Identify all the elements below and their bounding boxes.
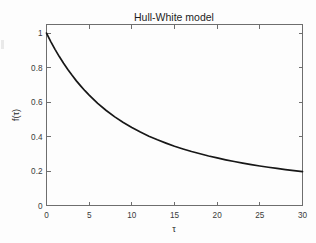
x-tick-label: 0 (44, 211, 49, 220)
x-axis-label: τ (172, 224, 176, 234)
y-tick-label: 0.4 (31, 133, 43, 142)
chart-title: Hull-White model (134, 11, 214, 23)
y-axis-ticks (47, 33, 303, 205)
y-axis-label: f(τ) (11, 109, 21, 121)
y-tick-label: 0.8 (31, 64, 43, 73)
x-tick-label: 5 (87, 211, 92, 220)
y-tick-label: 0.2 (31, 167, 43, 176)
x-tick-label: 20 (213, 211, 223, 220)
y-tick-label: 0 (38, 202, 43, 211)
x-tick-label: 10 (127, 211, 137, 220)
data-series-line (47, 33, 303, 172)
y-axis-tick-labels: 00.20.40.60.81 (31, 29, 43, 210)
x-axis-ticks (47, 25, 303, 206)
hull-white-plot: Hull-White model 051015202530 00.20.40.6… (0, 0, 316, 243)
x-tick-label: 15 (170, 211, 180, 220)
axes-frame (47, 25, 303, 206)
chart-figure: Hull-White model 051015202530 00.20.40.6… (0, 0, 316, 243)
x-tick-label: 30 (298, 211, 308, 220)
y-tick-label: 0.6 (31, 98, 43, 107)
x-tick-label: 25 (255, 211, 265, 220)
y-tick-label: 1 (38, 29, 43, 38)
x-axis-tick-labels: 051015202530 (44, 211, 307, 220)
